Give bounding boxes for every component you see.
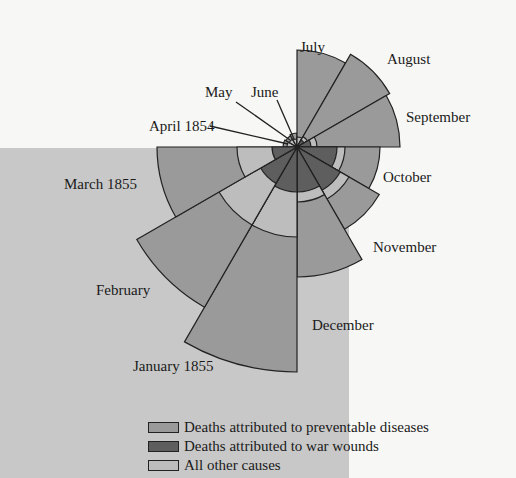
legend-label: All other causes	[184, 456, 281, 475]
rose-diagram	[0, 0, 516, 478]
legend: Deaths attributed to preventable disease…	[148, 418, 429, 475]
legend-swatch-wounds	[148, 441, 179, 452]
month-label: December	[312, 318, 374, 333]
month-label: April 1854	[149, 119, 214, 134]
month-label: October	[383, 170, 431, 185]
month-label: August	[387, 52, 430, 67]
legend-label: Deaths attributed to preventable disease…	[184, 418, 429, 437]
month-label: January 1855	[133, 359, 213, 374]
month-label: November	[373, 240, 436, 255]
legend-swatch-preventable	[148, 422, 179, 433]
month-label: February	[96, 283, 150, 298]
legend-item-preventable: Deaths attributed to preventable disease…	[148, 418, 429, 437]
legend-item-wounds: Deaths attributed to war wounds	[148, 437, 429, 456]
legend-swatch-other	[148, 460, 179, 471]
month-label: March 1855	[64, 177, 137, 192]
legend-label: Deaths attributed to war wounds	[184, 437, 379, 456]
month-label: July	[300, 40, 325, 55]
month-label: May	[205, 85, 233, 100]
month-label: June	[251, 85, 279, 100]
legend-item-other: All other causes	[148, 456, 429, 475]
month-label: September	[406, 110, 470, 125]
leader-line	[210, 126, 288, 144]
